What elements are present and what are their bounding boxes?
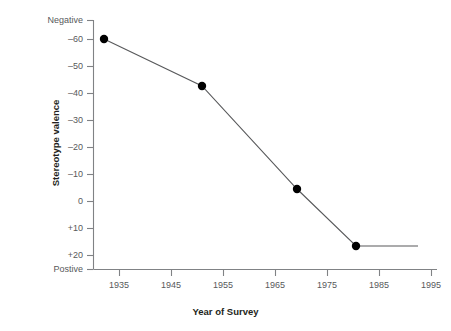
data-line [104,39,418,246]
y-axis-top-label: Negative [0,16,83,25]
y-axis-title: Stereotype valence [50,100,61,187]
y-tick-label: –30 [0,116,83,125]
data-point [293,185,301,193]
y-tick-label: +20 [0,251,83,260]
x-axis-ticks [120,270,432,277]
x-axis-title: Year of Survey [0,306,451,317]
y-tick-label: –40 [0,89,83,98]
data-point [352,242,360,250]
y-tick-label: +10 [0,224,83,233]
x-tick-label: 1965 [265,281,285,290]
x-tick-label: 1975 [317,281,337,290]
y-tick-label: –60 [0,35,83,44]
x-tick-label: 1935 [109,281,129,290]
x-tick-label: 1985 [369,281,389,290]
data-point [198,82,206,90]
data-point [100,35,108,43]
x-tick-label: 1995 [421,281,441,290]
y-tick-label: 0 [0,197,83,206]
y-tick-label: –50 [0,62,83,71]
data-point-markers [100,35,360,250]
y-axis-bottom-label: Postive [0,265,83,274]
x-tick-label: 1955 [213,281,233,290]
chart-figure: Negative –60 –50 –40 –30 –20 –10 0 +10 +… [0,0,451,331]
y-tick-label: –10 [0,170,83,179]
y-tick-label: –20 [0,143,83,152]
y-axis-ticks [87,21,94,270]
x-tick-label: 1945 [161,281,181,290]
